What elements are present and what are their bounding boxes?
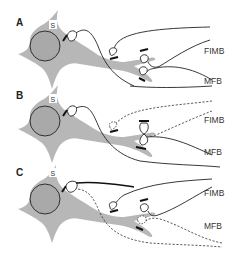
bouton-dendrite-a2	[140, 55, 148, 63]
neuron-plasticity-diagram: A S FIMB MFB B S	[0, 0, 243, 265]
label-fimb-a: FIMB	[204, 46, 225, 56]
nucleus-a	[30, 31, 60, 61]
panel-label-b: B	[16, 90, 23, 101]
label-mfb-b: MFB	[204, 147, 222, 157]
bouton-dendrite-c2	[140, 204, 148, 212]
bouton-soma-a	[67, 31, 76, 41]
panel-label-c: C	[16, 167, 23, 178]
panel-label-a: A	[16, 17, 23, 28]
bouton-dendrite-a3	[139, 67, 147, 75]
synapse-dendrite-c1	[110, 210, 118, 212]
label-fimb-b: FIMB	[204, 115, 225, 125]
soma-label-b: S	[51, 96, 56, 103]
bouton-sprout-soma-c	[66, 181, 77, 192]
fimb-axon-c1	[114, 179, 212, 205]
fimb-axon-degenerated-b1	[114, 101, 212, 125]
bouton-degenerated-c1	[137, 216, 146, 224]
panel-b: B S FIMB MFB	[16, 85, 225, 167]
mfb-axon-a2	[147, 67, 212, 80]
nucleus-b	[30, 106, 60, 136]
synapse-dendrite-a2	[140, 49, 148, 51]
mfb-axon-b2	[147, 137, 212, 155]
fimb-axon-a1	[112, 27, 210, 52]
label-fimb-c: FIMB	[204, 188, 225, 198]
soma-label-c: S	[51, 170, 56, 177]
label-mfb-a: MFB	[204, 76, 222, 86]
bouton-degenerated-b1	[109, 122, 116, 130]
synapse-dendrite-a1	[110, 57, 118, 59]
fimb-axon-c2	[148, 187, 212, 216]
bouton-soma-b	[67, 106, 76, 116]
panel-a: A S FIMB MFB	[16, 10, 225, 89]
nucleus-c	[30, 184, 60, 214]
fimb-axon-a2	[148, 40, 210, 67]
bouton-sprout-b-upper	[140, 123, 148, 134]
synapse-dendrite-b1	[110, 130, 118, 132]
soma-label-a: S	[51, 22, 56, 29]
bouton-dendrite-c1	[109, 202, 116, 210]
label-mfb-c: MFB	[204, 221, 222, 231]
fimb-axon-degenerated-b2	[149, 111, 212, 137]
fimb-sprout-axon-c	[76, 182, 134, 187]
mfb-axon-a3	[130, 86, 212, 88]
synapse-dendrite-c2	[140, 199, 148, 201]
bouton-dendrite-a1	[109, 48, 116, 56]
panel-c: C S FIMB MFB	[16, 165, 225, 247]
